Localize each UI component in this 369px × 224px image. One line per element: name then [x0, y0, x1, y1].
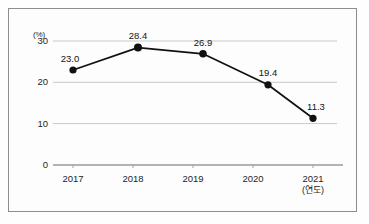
data-point-2021 — [309, 115, 316, 122]
data-point-2019 — [199, 50, 207, 58]
chart-figure: (%) 30 20 10 0 2017 2018 2019 2020 2021 … — [0, 0, 369, 224]
x-tick-label-2017: 2017 — [50, 173, 96, 184]
data-label-2021: 11.3 — [299, 102, 333, 112]
x-axis-note-label: (연도) — [290, 185, 336, 196]
x-tick-label-2018: 2018 — [110, 173, 156, 184]
data-label-2020: 19.4 — [251, 68, 285, 78]
y-tick-label-20: 20 — [26, 77, 48, 87]
data-line — [73, 48, 313, 119]
data-label-2019: 26.9 — [186, 38, 220, 48]
y-tick-label-30: 30 — [26, 36, 48, 46]
y-tick-label-10: 10 — [26, 119, 48, 129]
x-tick-label-2021: 2021 — [290, 173, 336, 184]
data-point-2018 — [134, 44, 142, 52]
data-point-2020 — [264, 81, 271, 88]
x-tick-label-2019: 2019 — [170, 173, 216, 184]
x-tick-label-2020: 2020 — [230, 173, 276, 184]
data-label-2017: 23.0 — [53, 54, 87, 64]
data-point-2017 — [69, 66, 76, 73]
y-tick-label-0: 0 — [26, 160, 48, 170]
data-label-2018: 28.4 — [121, 31, 155, 41]
